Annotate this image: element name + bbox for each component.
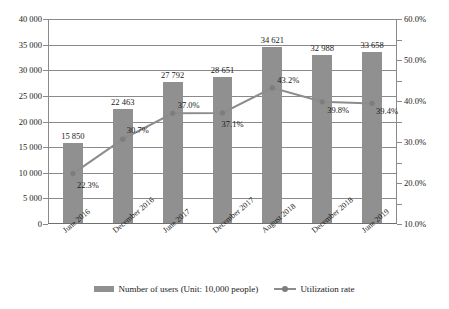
legend-item-number-of-users: Number of users (Unit: 10,000 people) [94, 284, 258, 294]
cut-off-text-remnant [255, 0, 445, 5]
line-path [73, 88, 372, 174]
left-axis-tick-label: 35 000 [19, 40, 42, 50]
left-axis-tick-label: 5 000 [23, 193, 42, 203]
left-axis-tick [43, 173, 48, 174]
legend-label-number-of-users: Number of users (Unit: 10,000 people) [118, 284, 258, 294]
right-axis-tick [397, 81, 402, 82]
line-value-label: 39.4% [376, 106, 398, 116]
left-axis-tick-label: 10 000 [19, 168, 42, 178]
chart-legend: Number of users (Unit: 10,000 people) Ut… [0, 284, 449, 294]
line-marker [320, 99, 325, 104]
line-marker [369, 101, 374, 106]
right-axis-tick [397, 60, 402, 61]
left-axis-tick-label: 40 000 [19, 14, 42, 24]
line-marker [170, 111, 175, 116]
line-value-label: 37.1% [222, 119, 244, 129]
left-axis-tick [43, 147, 48, 148]
bar-swatch-icon [94, 286, 114, 292]
line-marker [70, 171, 75, 176]
right-axis-tick [397, 122, 402, 123]
chart-container: 15 85022 46327 79228 65134 62132 98833 6… [0, 0, 449, 309]
right-axis-tick-label: 20.0% [404, 178, 426, 188]
right-axis-tick [397, 40, 402, 41]
line-marker [270, 85, 275, 90]
right-axis-tick-label: 10.0% [404, 219, 426, 229]
left-axis-tick [43, 224, 48, 225]
left-axis-tick [43, 122, 48, 123]
right-axis-tick [397, 183, 402, 184]
left-axis-tick-label: 15 000 [19, 142, 42, 152]
left-axis-tick-label: 25 000 [19, 91, 42, 101]
right-axis-tick [397, 204, 402, 205]
left-axis-tick [43, 19, 48, 20]
line-marker-swatch-icon [274, 285, 296, 293]
right-axis-tick-label: 50.0% [404, 55, 426, 65]
right-axis-tick [397, 142, 402, 143]
legend-label-utilization-rate: Utilization rate [300, 284, 354, 294]
right-axis-tick-label: 40.0% [404, 96, 426, 106]
right-axis-tick [397, 163, 402, 164]
line-marker [120, 137, 125, 142]
left-axis-tick-label: 0 [38, 219, 42, 229]
line-marker [220, 110, 225, 115]
left-axis-tick [43, 96, 48, 97]
right-axis-tick-label: 60.0% [404, 14, 426, 24]
left-axis-tick-label: 30 000 [19, 65, 42, 75]
line-value-label: 30.7% [127, 125, 149, 135]
plot-area: 15 85022 46327 79228 65134 62132 98833 6… [48, 19, 397, 224]
legend-item-utilization-rate: Utilization rate [274, 284, 354, 294]
left-axis-tick [43, 70, 48, 71]
right-axis-tick [397, 224, 402, 225]
left-axis-tick [43, 45, 48, 46]
left-axis-tick [43, 198, 48, 199]
line-value-label: 37.0% [178, 100, 200, 110]
line-value-label: 22.3% [77, 180, 99, 190]
right-axis-tick [397, 101, 402, 102]
right-axis-tick [397, 19, 402, 20]
line-value-label: 43.2% [277, 75, 299, 85]
right-axis-tick-label: 30.0% [404, 137, 426, 147]
line-value-label: 39.8% [327, 105, 349, 115]
left-axis-tick-label: 20 000 [19, 117, 42, 127]
